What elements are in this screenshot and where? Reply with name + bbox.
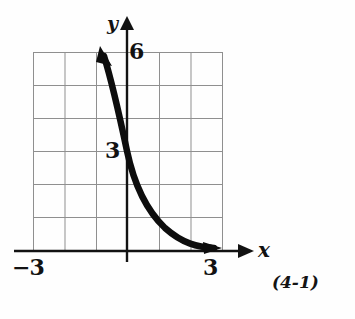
x-tick-label-3: 3 bbox=[203, 256, 218, 278]
x-axis-label: x bbox=[258, 240, 270, 260]
x-tick-label-negative-3: −3 bbox=[12, 256, 44, 278]
y-tick-label-3: 3 bbox=[105, 139, 120, 161]
y-axis-label: y bbox=[107, 14, 118, 33]
curve-arrow-start bbox=[96, 46, 112, 66]
figure-caption: (4-1) bbox=[272, 272, 319, 292]
y-tick-label-6: 6 bbox=[129, 40, 144, 62]
figure-root: y x 6 3 −3 3 (4-1) bbox=[0, 0, 355, 319]
